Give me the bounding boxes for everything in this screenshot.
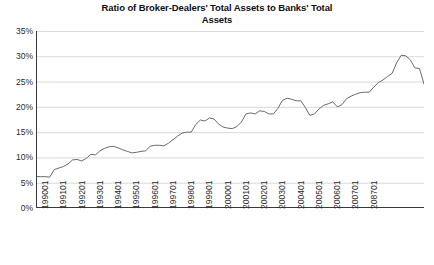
- chart-container: Ratio of Broker-Dealers' Total Assets to…: [0, 0, 434, 265]
- x-axis-labels: 1990011991011992011993011994011995011996…: [36, 209, 424, 265]
- x-axis-tick-label: 208701: [369, 181, 379, 209]
- data-series-line: [36, 55, 424, 177]
- y-axis-tick-label: 0%: [1, 203, 33, 213]
- x-axis-tick-label: 200301: [277, 181, 287, 209]
- chart-title-line-2: Assets: [0, 14, 434, 26]
- x-axis-tick-label: 199901: [204, 181, 214, 209]
- y-axis-tick-label: 35%: [1, 26, 33, 36]
- chart-title-line-1: Ratio of Broker-Dealers' Total Assets to…: [0, 2, 434, 14]
- gridlines: [36, 32, 424, 184]
- x-axis-tick-label: 200201: [259, 181, 269, 209]
- x-axis-tick-label: 199501: [131, 181, 141, 209]
- y-axis-tick-label: 10%: [1, 152, 33, 162]
- x-axis-tick-label: 199601: [150, 181, 160, 209]
- x-axis-tick-label: 200001: [223, 181, 233, 209]
- y-axis-labels: 0%5%10%15%20%25%30%35%: [0, 0, 33, 265]
- y-axis-tick-label: 20%: [1, 102, 33, 112]
- x-axis-tick-label: 200501: [314, 181, 324, 209]
- x-axis-tick-label: 200101: [241, 181, 251, 209]
- y-axis-tick-label: 5%: [1, 178, 33, 188]
- chart-title: Ratio of Broker-Dealers' Total Assets to…: [0, 2, 434, 26]
- x-axis-tick-label: 199401: [113, 181, 123, 209]
- y-axis-tick-label: 25%: [1, 77, 33, 87]
- x-axis-tick-label: 199001: [40, 181, 50, 209]
- x-axis-tick-label: 199101: [58, 181, 68, 209]
- x-axis-tick-label: 199301: [95, 181, 105, 209]
- x-axis-tick-label: 199201: [77, 181, 87, 209]
- y-axis-tick-label: 30%: [1, 51, 33, 61]
- y-axis-tick-label: 15%: [1, 127, 33, 137]
- x-axis-tick-label: 199701: [168, 181, 178, 209]
- x-axis-tick-label: 200401: [296, 181, 306, 209]
- x-axis-tick-label: 200601: [332, 181, 342, 209]
- x-axis-tick-label: 199801: [186, 181, 196, 209]
- x-axis-tick-label: 200701: [350, 181, 360, 209]
